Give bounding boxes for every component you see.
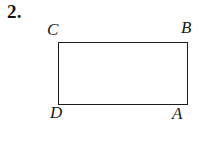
- vertex-label-b: B: [181, 19, 191, 37]
- rectangle-shape: [58, 42, 188, 105]
- vertex-label-d: D: [50, 104, 62, 122]
- figure-page: 2. C B D A: [0, 0, 215, 144]
- vertex-label-c: C: [47, 21, 58, 39]
- problem-number-label: 2.: [7, 1, 22, 23]
- vertex-label-a: A: [172, 105, 182, 123]
